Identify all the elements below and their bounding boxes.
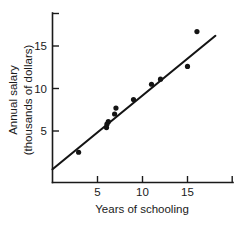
y-tick-label-10: 10 (34, 83, 47, 95)
data-point (131, 97, 136, 102)
y-axis-title-line1: Annual salary (7, 65, 19, 135)
chart-canvas: 5 10 15 5 10 15 Years of schooling Annua… (0, 0, 239, 226)
x-tick-label-5: 5 (94, 186, 100, 198)
data-point (112, 111, 117, 116)
data-point (185, 64, 190, 69)
regression-line (53, 36, 216, 169)
data-point (106, 119, 111, 124)
data-point (158, 77, 163, 82)
y-axis-title-line2: (thousands of dollars) (22, 45, 34, 156)
x-axis-title: Years of schooling (95, 203, 189, 215)
data-point (194, 29, 199, 34)
y-tick-label-15: 15 (34, 40, 47, 52)
data-point (149, 82, 154, 87)
y-tick-label-5: 5 (41, 125, 47, 137)
x-tick-label-10: 10 (136, 186, 149, 198)
data-point (76, 150, 81, 155)
data-point (113, 105, 118, 110)
scatter-plot-figure: 5 10 15 5 10 15 Years of schooling Annua… (0, 0, 239, 226)
x-tick-label-15: 15 (181, 186, 194, 198)
